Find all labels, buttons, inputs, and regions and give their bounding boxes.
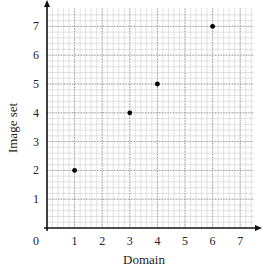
- grid: [47, 8, 254, 228]
- x-tick-label: 1: [72, 234, 78, 248]
- y-tick-label: 5: [33, 77, 39, 91]
- y-axis-arrow-icon: [44, 0, 50, 7]
- y-tick-labels: 1234567: [33, 19, 39, 206]
- x-tick-label: 5: [182, 234, 188, 248]
- y-tick-label: 3: [33, 135, 39, 149]
- x-tick-labels: 01234567: [33, 234, 243, 248]
- x-tick-label: 2: [99, 234, 105, 248]
- x-tick-label: 4: [154, 234, 160, 248]
- y-tick-label: 7: [33, 19, 39, 33]
- y-tick-label: 2: [33, 163, 39, 177]
- x-axis-label: Domain: [123, 252, 165, 267]
- y-tick-label: 6: [33, 48, 39, 62]
- data-point: [210, 24, 215, 29]
- x-tick-label: 6: [210, 234, 216, 248]
- y-axis-label: Image set: [5, 103, 20, 154]
- x-axis-arrow-icon: [255, 225, 262, 231]
- data-points: [72, 24, 215, 173]
- data-point: [72, 168, 77, 173]
- x-tick-label: 0: [33, 234, 39, 248]
- data-point: [155, 82, 160, 87]
- chart: 01234567 1234567 Domain Image set: [0, 0, 271, 272]
- data-point: [127, 110, 132, 115]
- y-tick-label: 1: [33, 192, 39, 206]
- y-tick-label: 4: [33, 106, 39, 120]
- x-tick-label: 3: [127, 234, 133, 248]
- x-tick-label: 7: [237, 234, 243, 248]
